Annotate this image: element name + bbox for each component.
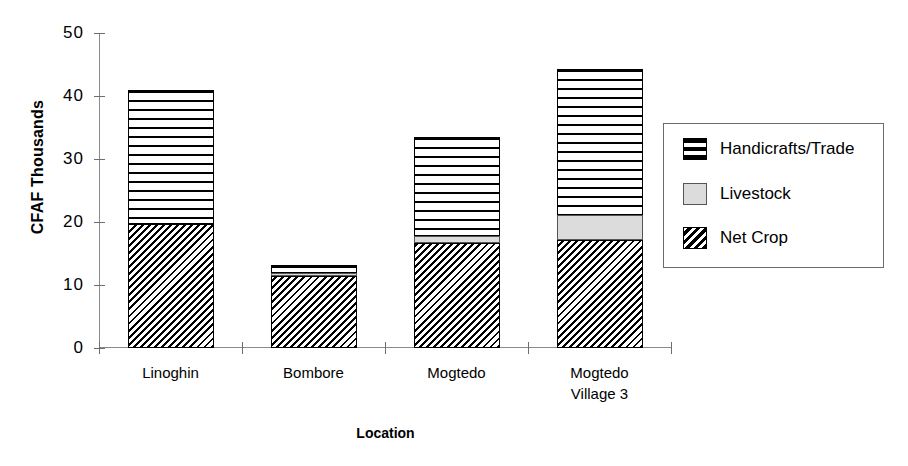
legend-label-handicrafts-trade: Handicrafts/Trade	[720, 139, 854, 159]
y-tick-20: 20	[94, 222, 105, 223]
y-tick-40: 40	[94, 96, 105, 97]
x-tick-2	[385, 342, 386, 354]
legend-label-livestock: Livestock	[720, 184, 791, 204]
legend-swatch-livestock-icon	[683, 183, 707, 205]
bar-bombore[interactable]	[271, 265, 357, 348]
bar-segment-net-crop[interactable]	[128, 224, 214, 348]
y-tick-label-20: 20	[63, 212, 84, 232]
bar-segment-livestock[interactable]	[271, 273, 357, 276]
legend-item-net-crop[interactable]: Net Crop	[683, 227, 788, 249]
x-axis-title: Location	[99, 425, 672, 441]
bar-mogtedo[interactable]	[414, 137, 500, 348]
y-tick-label-30: 30	[63, 149, 84, 169]
x-tick-4	[671, 342, 672, 354]
x-tick-1	[242, 342, 243, 354]
y-axis-line	[99, 33, 100, 348]
legend-swatch-net-crop-icon	[683, 227, 707, 249]
legend: Handicrafts/Trade Livestock Net Crop	[663, 123, 884, 268]
y-tick-label-10: 10	[63, 275, 84, 295]
bar-mogtedo-village-3[interactable]	[557, 69, 643, 348]
stacked-bar-chart-figure: CFAF Thousands 0 10 20 30 40 50	[0, 0, 908, 466]
y-tick-10: 10	[94, 285, 105, 286]
bar-segment-handicrafts-trade[interactable]	[557, 69, 643, 215]
legend-item-handicrafts-trade[interactable]: Handicrafts/Trade	[683, 138, 854, 160]
y-tick-label-0: 0	[74, 338, 84, 358]
x-tick-3	[528, 342, 529, 354]
x-category-label-mogtedo-village-3: Mogtedo Village 3	[528, 362, 671, 404]
x-category-label-line: Bombore	[242, 362, 385, 383]
y-tick-50: 50	[94, 33, 105, 34]
bar-segment-handicrafts-trade[interactable]	[128, 90, 214, 224]
x-category-label-line: Linoghin	[99, 362, 242, 383]
y-tick-label-40: 40	[63, 86, 84, 106]
y-tick-label-50: 50	[63, 23, 84, 43]
x-category-label-line: Mogtedo	[385, 362, 528, 383]
bar-linoghin[interactable]	[128, 90, 214, 348]
x-tick-0	[99, 342, 100, 354]
x-category-label-line: Village 3	[528, 383, 671, 404]
bar-segment-net-crop[interactable]	[271, 276, 357, 348]
plot-area: 0 10 20 30 40 50	[99, 33, 672, 348]
bar-segment-livestock[interactable]	[414, 236, 500, 243]
legend-label-net-crop: Net Crop	[720, 228, 788, 248]
bar-segment-net-crop[interactable]	[557, 240, 643, 348]
y-axis-title: CFAF Thousands	[29, 57, 47, 277]
legend-swatch-handicrafts-trade-icon	[683, 138, 707, 160]
x-category-label-mogtedo: Mogtedo	[385, 362, 528, 383]
bar-segment-handicrafts-trade[interactable]	[414, 137, 500, 236]
bar-segment-net-crop[interactable]	[414, 243, 500, 348]
x-category-label-linoghin: Linoghin	[99, 362, 242, 383]
bar-segment-livestock[interactable]	[557, 215, 643, 240]
x-category-label-line: Mogtedo	[528, 362, 671, 383]
x-category-label-bombore: Bombore	[242, 362, 385, 383]
legend-item-livestock[interactable]: Livestock	[683, 183, 791, 205]
y-tick-30: 30	[94, 159, 105, 160]
bar-segment-handicrafts-trade[interactable]	[271, 265, 357, 273]
